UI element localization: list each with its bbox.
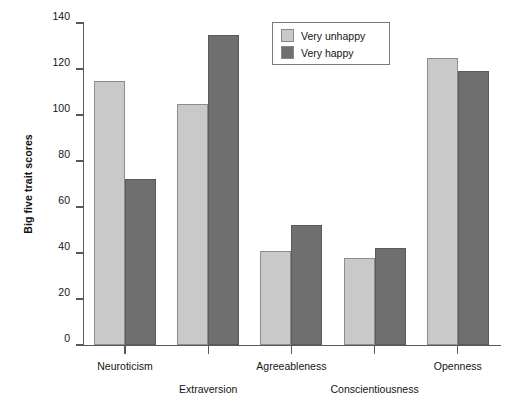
y-tick-mark [76, 68, 84, 69]
legend: Very unhappy Very happy [272, 22, 390, 65]
bar [458, 71, 489, 345]
bar [375, 248, 406, 345]
x-tick-label: Extraversion [179, 383, 237, 395]
bar [94, 81, 125, 346]
legend-item-very-unhappy: Very unhappy [281, 28, 365, 43]
x-tick-mark [124, 346, 125, 354]
bar [260, 251, 291, 345]
x-tick-mark [208, 346, 209, 354]
bar [125, 179, 156, 345]
x-tick-label: Agreeableness [256, 360, 326, 372]
y-tick-label: 100 [0, 102, 70, 114]
y-tick-label: 20 [0, 286, 70, 298]
bar-chart: Big five trait scores 020406080100120140… [0, 0, 524, 410]
y-tick-label: 140 [0, 10, 70, 22]
y-tick-mark [76, 22, 84, 23]
bar [427, 58, 458, 346]
bar [291, 225, 322, 345]
bar [208, 35, 239, 346]
legend-swatch-very-happy [281, 46, 294, 59]
bar [344, 258, 375, 345]
x-axis-line [84, 345, 501, 346]
legend-label-very-happy: Very happy [301, 47, 354, 59]
bar [177, 104, 208, 346]
y-tick-label: 120 [0, 56, 70, 68]
y-tick-label: 60 [0, 194, 70, 206]
y-tick-label: 80 [0, 148, 70, 160]
legend-item-very-happy: Very happy [281, 45, 354, 60]
x-tick-mark [374, 346, 375, 354]
y-tick-mark [76, 160, 84, 161]
y-tick-label: 0 [0, 332, 70, 344]
x-tick-label: Conscientiousness [331, 383, 419, 395]
x-tick-label: Neuroticism [97, 360, 152, 372]
x-tick-mark [457, 346, 458, 354]
x-tick-mark [291, 346, 292, 354]
y-tick-mark [76, 114, 84, 115]
y-tick-mark [76, 298, 84, 299]
y-tick-mark [76, 252, 84, 253]
y-tick-mark [76, 206, 84, 207]
legend-swatch-very-unhappy [281, 29, 294, 42]
y-tick-label: 40 [0, 240, 70, 252]
y-tick-mark [76, 344, 84, 345]
x-tick-label: Openness [434, 360, 482, 372]
legend-label-very-unhappy: Very unhappy [301, 30, 365, 42]
